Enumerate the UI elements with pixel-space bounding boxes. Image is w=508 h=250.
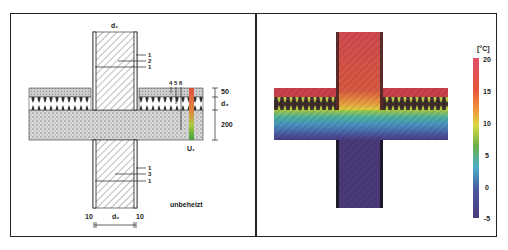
wall-thickness-label-d1: d₁	[111, 22, 118, 29]
legend-tick: 0	[485, 184, 489, 191]
layer-label: 6	[179, 80, 182, 86]
construction-drawing	[0, 0, 508, 250]
legend-tick: 20	[483, 56, 491, 63]
legend-tick: 5	[485, 152, 489, 159]
layer-label: 1	[148, 178, 151, 184]
legend-tick: 10	[483, 120, 491, 127]
dimension-label: 10	[136, 213, 144, 220]
layer-label: 3	[148, 171, 151, 177]
room-label: unbeheizt	[170, 201, 203, 208]
layer-label: 1	[148, 64, 151, 70]
legend-tick: -5	[484, 215, 490, 222]
layer-label: 4	[169, 80, 172, 86]
left-section-drawing	[29, 32, 218, 228]
dimension-label: d₂	[112, 213, 119, 220]
probe-label: U₁	[187, 145, 195, 152]
dimension-label: 10	[85, 213, 93, 220]
dimension-label: d₃	[221, 100, 229, 107]
dimension-label: 200	[221, 121, 233, 128]
thermal-simulation-drawing	[274, 32, 479, 218]
temperature-legend-bar	[473, 58, 479, 218]
layer-label: 5	[174, 80, 177, 86]
dimension-label: 50	[221, 88, 229, 95]
legend-unit: [°C]	[477, 45, 490, 52]
legend-tick: 15	[483, 88, 491, 95]
